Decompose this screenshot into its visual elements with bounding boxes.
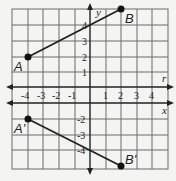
svg-text:2: 2 [82, 52, 87, 63]
point-a [25, 54, 32, 61]
svg-text:-3: -3 [37, 90, 45, 101]
svg-text:-2: -2 [77, 114, 85, 125]
point-a-label: A [13, 59, 23, 74]
svg-text:3: 3 [134, 90, 139, 101]
point-b-label: B [125, 11, 134, 26]
svg-text:2: 2 [118, 90, 123, 101]
svg-text:4: 4 [149, 90, 154, 101]
y-axis-label: y [95, 6, 101, 18]
svg-text:3: 3 [82, 36, 87, 47]
svg-text:-2: -2 [52, 90, 60, 101]
svg-text:-1: -1 [68, 90, 76, 101]
reflection-line-label: r [162, 72, 167, 84]
point-b-prime-label: B' [125, 152, 137, 167]
point-a-prime [25, 116, 32, 123]
point-a-prime-label: A' [13, 121, 26, 136]
svg-text:1: 1 [103, 90, 108, 101]
svg-text:-4: -4 [21, 90, 29, 101]
coordinate-grid: y r x -4 -3 -2 -1 1 2 3 4 1 2 3 4 -2 -3 … [0, 0, 176, 181]
svg-text:1: 1 [82, 67, 87, 78]
x-axis-label: x [161, 104, 167, 116]
point-b-prime [118, 163, 125, 170]
x-tick-labels: -4 -3 -2 -1 1 2 3 4 [21, 90, 154, 101]
svg-text:-3: -3 [77, 130, 85, 141]
y-tick-labels: 1 2 3 4 -2 -3 -4 [77, 20, 87, 156]
point-b [118, 6, 125, 13]
